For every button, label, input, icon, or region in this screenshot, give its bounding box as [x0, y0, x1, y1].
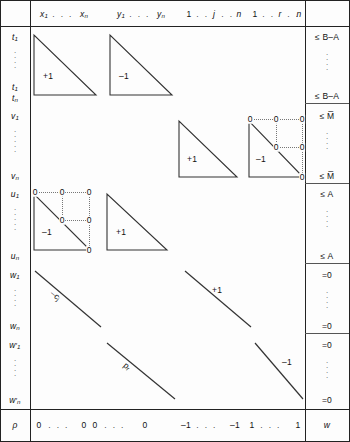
rhs-label-5: ≤ A [321, 252, 334, 261]
row-label-w1-sub: 1 [16, 273, 20, 280]
column-header-x-dots: · · · [52, 11, 73, 21]
column-header-y-dots: · · · [129, 11, 150, 21]
block-value-v-r: –1 [256, 155, 266, 164]
column-header-j-mid: j [213, 10, 215, 19]
bottom-j-first: –1 [181, 421, 191, 430]
bottom-x-last: 0 [82, 421, 87, 430]
row-label-wn: wn [10, 322, 20, 331]
block-value-u-x: –1 [42, 228, 52, 237]
rhs-label-9: =0 [322, 396, 332, 405]
bottom-row-separator [0, 409, 350, 410]
row-label-t1-sub: 1 [14, 35, 18, 42]
column-header-r-mid: r [278, 10, 281, 19]
zero-v-r-mr: 0 [299, 143, 305, 152]
rhs-vdots-3: ···· [320, 290, 334, 310]
column-header-yn: yn [157, 10, 165, 19]
bottom-y-last: 0 [143, 421, 148, 430]
row-label-rho: ρ [12, 421, 17, 430]
column-header-y1: y1 [117, 10, 125, 19]
block-value-w2-r: –1 [282, 358, 292, 367]
rhs-label-2: ≤ M̅ [320, 112, 335, 121]
row-label-vn: vn [11, 172, 19, 181]
row-label-separator [30, 0, 31, 442]
rhs-label-7: =0 [322, 322, 332, 331]
row-label-u1: u1 [11, 190, 20, 199]
bottom-j-last: –1 [230, 421, 240, 430]
bottom-j-dots: · · · [196, 422, 217, 432]
block-value-w-j: +1 [212, 286, 222, 295]
row-label-w1: w1 [10, 271, 20, 280]
rhs-vdots-2: ···· [320, 209, 334, 229]
row-label-wprimen: w′n [9, 396, 21, 405]
header-separator [0, 26, 350, 27]
row-label-tn-sub: n [14, 96, 18, 103]
row-label-vn-sub: n [15, 174, 19, 181]
column-header-j-first: 1 [187, 10, 192, 19]
rhs-separator [305, 0, 306, 442]
block-diagonal-w-x [34, 270, 102, 328]
column-header-r-first: 1 [253, 10, 258, 19]
row-label-wprimen-sub: n [17, 398, 21, 405]
row-label-wprime-vdots: ···· [8, 358, 22, 378]
row-label-t1b: t1 [12, 83, 18, 92]
column-header-j-dots-right: · · [221, 11, 234, 21]
band-separator-v-u [305, 183, 349, 184]
zero-v-r-br: 0 [299, 173, 305, 182]
zero-v-r-tr: 0 [299, 115, 305, 124]
border-left [0, 0, 1, 442]
bottom-y-dots: · · · [104, 422, 125, 432]
rhs-label-1: ≤ B–A [315, 92, 339, 101]
zero-v-r-tm: 0 [273, 115, 279, 124]
bottom-r-last: 1 [296, 421, 301, 430]
row-label-v1: v1 [11, 112, 19, 121]
rhs-vdots-1: ···· [320, 131, 334, 151]
block-diagonal-w2-r [254, 342, 304, 400]
zero-u-x-tm: 0 [59, 188, 65, 197]
rhs-label-bottom: w [324, 421, 330, 430]
row-label-u1-sub: 1 [16, 192, 20, 199]
rhs-vdots-0: ···· [320, 52, 334, 72]
column-header-xn: xn [80, 10, 88, 19]
row-label-v1-sub: 1 [15, 114, 19, 121]
row-label-tn: tn [12, 94, 18, 103]
rhs-label-6: =0 [322, 271, 332, 280]
bottom-y-first: 0 [93, 421, 98, 430]
column-header-r-dots-left: · · [262, 11, 275, 21]
row-label-t-vdots: ···· [8, 50, 22, 70]
block-diagonal-w-j [184, 270, 252, 328]
zero-u-x-tr: 0 [86, 188, 92, 197]
block-triangle-v-j [178, 120, 238, 178]
bottom-x-dots: · · · [48, 422, 69, 432]
block-value-t-x: +1 [43, 72, 53, 81]
block-value-u-y: +1 [116, 228, 126, 237]
bottom-x-first: 0 [37, 421, 42, 430]
column-header-yn-sub: n [161, 12, 165, 19]
matrix-tableau-figure: x1 · · · xn y1 · · · yn 1 · · j · · n 1 … [0, 0, 350, 442]
row-label-un-sub: n [16, 254, 20, 261]
column-header-xn-sub: n [84, 12, 88, 19]
band-separator-w-w2 [305, 333, 349, 334]
column-header-y1-sub: 1 [121, 12, 125, 19]
zero-v-r-mm: 0 [273, 143, 279, 152]
bottom-r-dots: · · · [260, 422, 281, 432]
block-value-t-y: –1 [119, 72, 129, 81]
row-label-wprime1-sub: 1 [17, 343, 21, 350]
zero-u-x-tl: 0 [32, 188, 38, 197]
rhs-label-3: ≤ M̅ [320, 172, 335, 181]
column-header-j-last: n [237, 10, 242, 19]
rhs-vdots-4: ···· [320, 360, 334, 380]
zero-u-x-mr: 0 [86, 216, 92, 225]
row-label-un: un [11, 252, 20, 261]
block-triangle-u-y [106, 193, 168, 251]
column-header-x1-sub: 1 [44, 12, 48, 19]
column-header-j-dots-left: · · [196, 11, 209, 21]
rhs-label-4: ≤ A [321, 190, 334, 199]
column-header-r-last: n [297, 10, 302, 19]
border-top [0, 0, 350, 1]
band-separator-t-v [305, 103, 349, 104]
zero-u-x-mm: 0 [59, 216, 65, 225]
row-label-t1: t1 [12, 33, 18, 42]
row-label-w-vdots: ···· [8, 288, 22, 308]
row-label-wn-sub: n [16, 324, 20, 331]
row-label-u-vdots: ····· [8, 207, 22, 232]
